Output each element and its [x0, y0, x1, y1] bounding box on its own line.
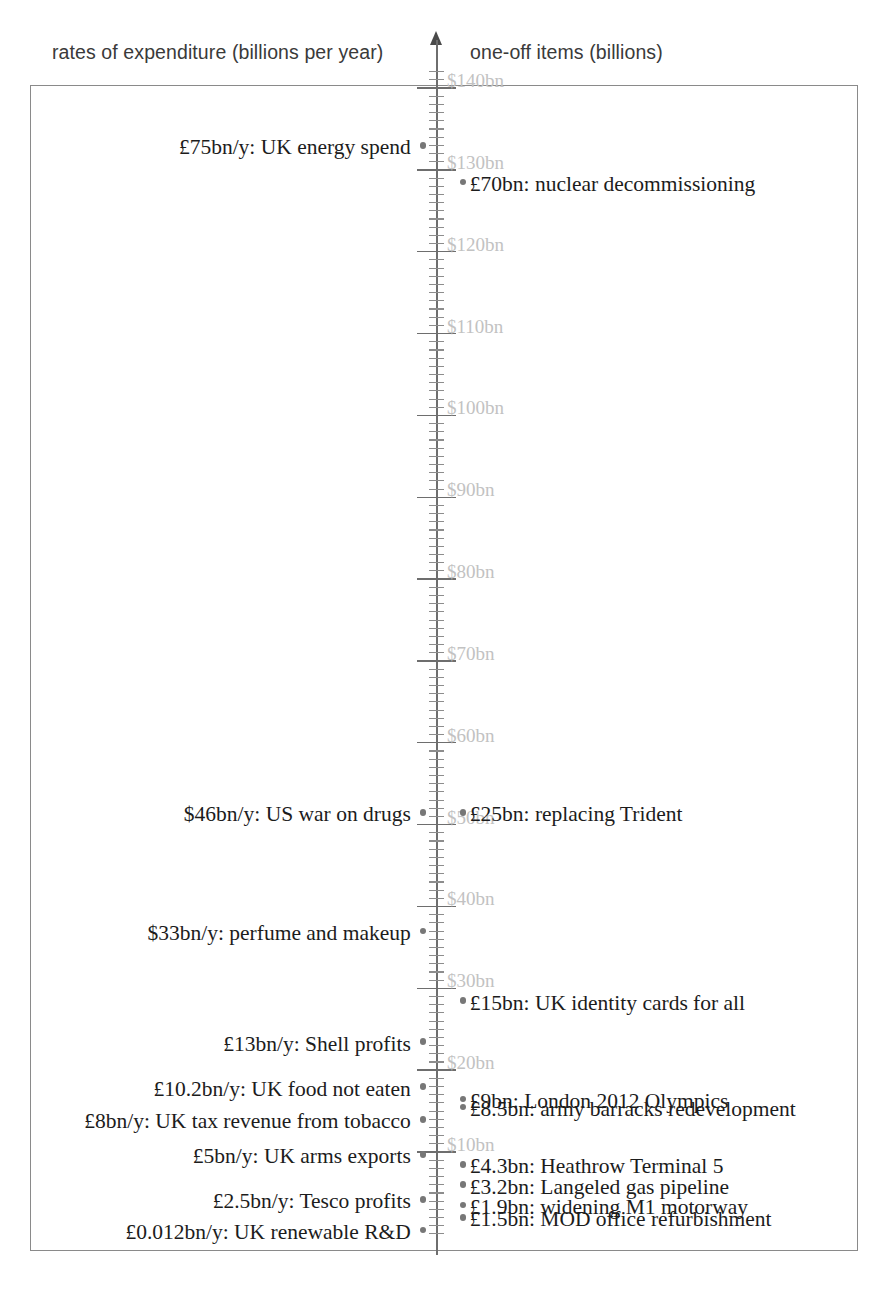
axis-minor-tick — [429, 1225, 444, 1226]
axis-minor-tick — [429, 1111, 444, 1112]
axis-minor-tick — [429, 472, 444, 473]
axis-minor-tick — [429, 218, 444, 219]
axis-minor-tick — [429, 79, 444, 80]
axis-minor-tick — [429, 710, 444, 711]
axis-minor-tick — [429, 399, 444, 400]
axis-minor-tick — [429, 505, 444, 506]
axis-tick-label: $90bn — [447, 480, 495, 499]
axis-minor-tick — [429, 1102, 444, 1103]
axis-minor-tick — [429, 456, 444, 457]
axis-minor-tick — [429, 554, 444, 555]
axis-minor-tick — [429, 178, 444, 179]
axis-minor-tick — [429, 620, 444, 621]
axis-minor-tick — [429, 800, 444, 801]
axis-minor-tick — [429, 538, 444, 539]
axis-minor-tick — [429, 955, 444, 956]
axis-minor-tick — [429, 791, 444, 792]
axis-minor-tick — [429, 407, 444, 408]
data-point-label: £15bn: UK identity cards for all — [470, 993, 745, 1015]
axis-minor-tick — [429, 112, 444, 113]
axis-minor-tick — [429, 898, 444, 899]
data-point-marker — [460, 809, 467, 816]
axis-minor-tick — [429, 235, 444, 236]
axis-minor-tick — [429, 677, 444, 678]
axis-minor-tick — [429, 726, 444, 727]
axis-minor-tick — [429, 685, 444, 686]
axis-minor-tick — [429, 644, 444, 645]
axis-minor-tick — [429, 284, 444, 285]
axis-minor-tick — [429, 1233, 444, 1234]
axis-minor-tick — [429, 276, 444, 277]
data-point-label: £5bn/y: UK arms exports — [193, 1146, 411, 1168]
data-point-marker — [460, 1161, 467, 1168]
axis-minor-tick — [429, 636, 444, 637]
axis-minor-tick — [429, 292, 444, 293]
data-point-marker — [420, 1151, 427, 1158]
axis-minor-tick — [429, 349, 444, 350]
axis-minor-tick — [429, 1119, 444, 1120]
data-point-label: £75bn/y: UK energy spend — [179, 137, 411, 159]
axis-minor-tick — [429, 358, 444, 359]
axis-minor-tick — [429, 857, 444, 858]
axis-tick-label: $110bn — [447, 317, 503, 336]
axis-minor-tick — [429, 971, 444, 972]
axis-minor-tick — [429, 423, 444, 424]
axis-minor-tick — [429, 734, 444, 735]
axis-minor-tick — [429, 996, 444, 997]
axis-minor-tick — [429, 939, 444, 940]
axis-minor-tick — [429, 611, 444, 612]
axis-minor-tick — [429, 669, 444, 670]
axis-minor-tick — [429, 759, 444, 760]
axis-minor-tick — [429, 1086, 444, 1087]
axis-minor-tick — [429, 71, 444, 72]
axis-minor-tick — [429, 652, 444, 653]
data-point-label: £8.5bn: army barracks redevelopment — [470, 1099, 796, 1121]
axis-minor-tick — [429, 366, 444, 367]
axis-minor-tick — [429, 767, 444, 768]
axis-minor-tick — [429, 227, 444, 228]
axis-minor-tick — [429, 546, 444, 547]
axis-minor-tick — [429, 832, 444, 833]
axis-tick-label: $140bn — [447, 71, 504, 90]
axis-minor-tick — [429, 881, 444, 882]
axis-minor-tick — [429, 890, 444, 891]
axis-minor-tick — [429, 194, 444, 195]
axis-minor-tick — [429, 1021, 444, 1022]
axis-minor-tick — [429, 783, 444, 784]
axis-minor-tick — [429, 268, 444, 269]
axis-minor-tick — [429, 1037, 444, 1038]
axis-tick-label: $40bn — [447, 889, 495, 908]
axis-minor-tick — [429, 562, 444, 563]
axis-minor-tick — [429, 341, 444, 342]
axis-minor-tick — [429, 914, 444, 915]
data-point-label: £10.2bn/y: UK food not eaten — [153, 1079, 410, 1101]
axis-minor-tick — [429, 382, 444, 383]
axis-minor-tick — [429, 317, 444, 318]
vertical-axis — [436, 40, 438, 1255]
axis-minor-tick — [429, 1127, 444, 1128]
axis-minor-tick — [429, 210, 444, 211]
axis-minor-tick — [429, 308, 444, 309]
data-point-marker — [420, 1083, 427, 1090]
chart-page: rates of expenditure (billions per year)… — [0, 0, 887, 1311]
axis-minor-tick — [429, 1078, 444, 1079]
axis-minor-tick — [429, 1061, 444, 1062]
axis-minor-tick — [429, 439, 444, 440]
data-point-marker — [460, 997, 467, 1004]
axis-tick-label: $10bn — [447, 1135, 495, 1154]
data-point-label: £13bn/y: Shell profits — [223, 1034, 411, 1056]
axis-tick-label: $30bn — [447, 971, 495, 990]
axis-tick-label: $70bn — [447, 644, 495, 663]
axis-minor-tick — [429, 489, 444, 490]
axis-minor-tick — [429, 259, 444, 260]
axis-minor-tick — [429, 145, 444, 146]
axis-minor-tick — [429, 104, 444, 105]
axis-tick-label: $130bn — [447, 153, 504, 172]
data-point-label: $46bn/y: US war on drugs — [184, 804, 411, 826]
data-point-label: £25bn: replacing Trident — [470, 804, 683, 826]
data-point-marker — [420, 809, 427, 816]
axis-minor-tick — [429, 1184, 444, 1185]
axis-minor-tick — [429, 775, 444, 776]
axis-minor-tick — [429, 628, 444, 629]
axis-minor-tick — [429, 1217, 444, 1218]
